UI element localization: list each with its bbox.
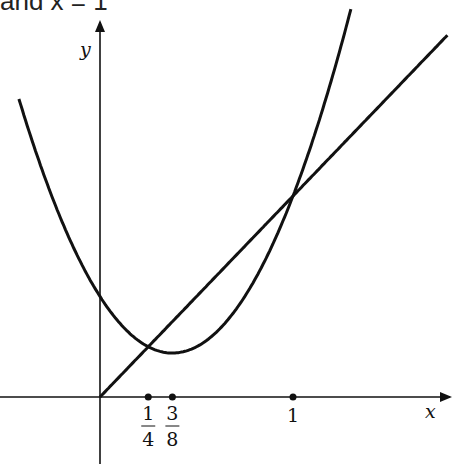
x-tick-dot (169, 394, 176, 401)
x-tick-label: 4 (142, 428, 154, 450)
x-tick-dot (145, 394, 152, 401)
line-curve (100, 35, 447, 397)
x-tick-label: 8 (166, 428, 178, 450)
y-axis-label: y (79, 38, 91, 60)
plot-area: 14381 x y (0, 0, 465, 464)
x-tick-label: 1 (287, 404, 299, 426)
x-tick-label: 3 (166, 402, 178, 424)
x-axis-label: x (425, 400, 436, 422)
x-tick-dot (290, 394, 297, 401)
x-tick-label: 1 (142, 402, 154, 424)
parabola-curve (19, 9, 351, 353)
